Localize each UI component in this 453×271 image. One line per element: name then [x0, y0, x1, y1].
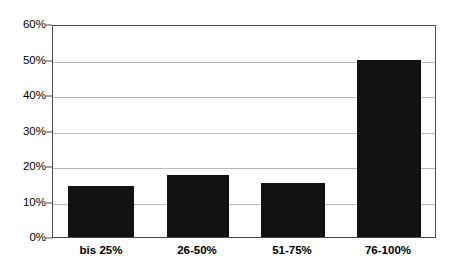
- y-tick-label: 40%: [0, 90, 46, 102]
- bar-chart: 60% 50% 40% 30% 20% 10% 0% bis 25% 26-50…: [0, 0, 453, 271]
- bar-76-100: [357, 60, 421, 237]
- x-tick-label-76-100: 76-100%: [347, 245, 429, 257]
- bar-bis-25: [68, 186, 134, 237]
- y-tick-label: 20%: [0, 161, 46, 173]
- y-tick-label: 60%: [0, 19, 46, 31]
- y-tick-label: 10%: [0, 197, 46, 209]
- y-tick-label: 0%: [0, 232, 46, 244]
- x-tick-label-26-50: 26-50%: [156, 245, 238, 257]
- y-tick-label: 30%: [0, 126, 46, 138]
- bar-26-50: [167, 175, 229, 237]
- plot-area: [52, 25, 436, 238]
- y-tick-label: 50%: [0, 55, 46, 67]
- bar-51-75: [261, 183, 325, 238]
- x-tick-label-bis-25: bis 25%: [60, 245, 142, 257]
- x-tick-label-51-75: 51-75%: [251, 245, 333, 257]
